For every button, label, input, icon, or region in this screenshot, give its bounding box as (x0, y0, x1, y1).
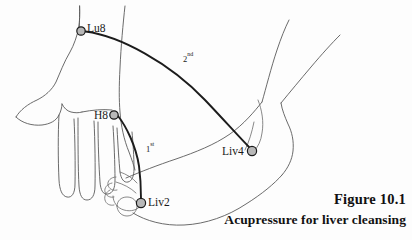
acupoint-marker-liv4[interactable] (247, 146, 256, 155)
sequence-labels-group: 1st 2nd (146, 51, 193, 154)
acupoint-marker-liv2[interactable] (136, 198, 145, 207)
figure-caption-subtitle: Acupressure for liver cleansing (224, 210, 406, 230)
foot-heel-contour (281, 103, 293, 175)
hand-outline-group (16, 6, 135, 200)
acupoint-liv4-group[interactable]: Liv4 (222, 145, 257, 157)
acupoint-marker-h8[interactable] (110, 111, 118, 119)
foot-toe-crease (120, 172, 137, 183)
meridian-path-2nd (86, 32, 250, 148)
acupoint-label-h8: H8 (94, 109, 108, 121)
figure-caption-title: Figure 10.1 (224, 189, 406, 210)
sequence-second-suffix: nd (187, 51, 193, 57)
leg-front-edge (262, 20, 289, 102)
hand-middle-finger (78, 118, 95, 200)
meridian-path-1st (118, 116, 141, 199)
acupoint-h8-group[interactable]: H8 (94, 109, 118, 121)
foot-toe-crease-lower (116, 182, 136, 193)
forearm-right-edge (119, 6, 135, 170)
hand-thumb-lower-contour (16, 104, 62, 125)
figure-caption: Figure 10.1 Acupressure for liver cleans… (224, 189, 406, 230)
leg-rear-edge (281, 35, 340, 103)
sequence-label-first: 1st (146, 141, 155, 154)
hand-ring-finger (98, 122, 115, 194)
hand-index-finger (58, 115, 75, 197)
sequence-first-suffix: st (150, 141, 154, 147)
forearm-left-edge (79, 6, 80, 27)
acupoint-marker-lu8[interactable] (77, 27, 85, 35)
foot-ankle-malleolus (254, 100, 263, 151)
acupoint-lu8-group[interactable]: Lu8 (77, 22, 106, 35)
acupoint-label-liv4: Liv4 (222, 145, 244, 157)
sequence-label-second: 2nd (183, 51, 193, 64)
acupoint-label-lu8: Lu8 (87, 22, 106, 34)
hand-thumb-and-back-contour (16, 6, 80, 117)
hand-knuckle-ridge (62, 104, 82, 113)
leg-inner-contour (245, 122, 254, 150)
figure-container: 1st 2nd Lu8 H8 Liv4 Liv2 Figure 10.1 Acu… (0, 0, 412, 240)
acupoint-label-liv2: Liv2 (148, 196, 170, 208)
